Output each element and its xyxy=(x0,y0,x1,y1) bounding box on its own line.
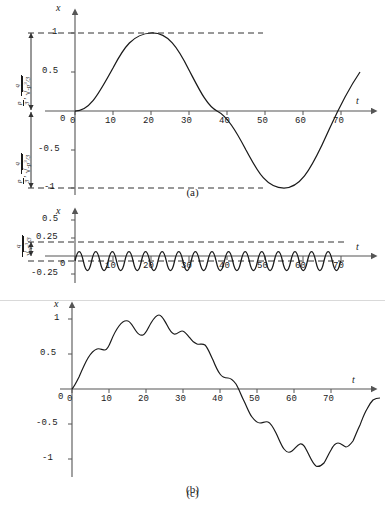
x-tick-label-b-7: 70 xyxy=(333,261,344,271)
x-tick-label-a-5: 50 xyxy=(257,116,268,126)
y-tick-label-a-3: -0.5 xyxy=(38,144,60,154)
bracket-label-b-term: q √-p3/3 xyxy=(15,235,34,257)
y-tick-label-c-2: 0 xyxy=(58,392,63,402)
y-axis-label-b: x xyxy=(56,205,60,216)
y-tick-label-c-0: 1 xyxy=(54,313,59,323)
panel-b: 0.5 0.25 0 -0.25 10 20 30 40 50 60 70 x … xyxy=(0,205,385,297)
bracket-label-upper-sep: , xyxy=(18,97,27,101)
x-tick-label-c-7: 70 xyxy=(323,394,334,404)
x-tick-label-a-4: 40 xyxy=(219,116,230,126)
panel-c-caption: (c) xyxy=(0,487,385,499)
y-axis-label-c: x xyxy=(54,298,58,309)
y-tick-label-a-2: 0 xyxy=(60,114,65,124)
bracket-label-upper-term1: p 3 xyxy=(16,101,31,107)
x-tick-marks xyxy=(72,389,331,393)
bracket-upper-arrow-top xyxy=(28,33,33,38)
x-tick-marks xyxy=(75,111,341,115)
x-tick-label-c-2: 20 xyxy=(138,394,149,404)
x-tick-label-b-6: 60 xyxy=(295,261,306,271)
x-tick-label-c-1: 10 xyxy=(101,394,112,404)
x-tick-label-c-6: 60 xyxy=(286,394,297,404)
bracket-label-lower-sep: , xyxy=(18,175,27,179)
bracket-label-upper-term2: q √-p3/3 xyxy=(14,75,33,97)
x-tick-label-a-6: 60 xyxy=(295,116,306,126)
x-tick-label-b-3: 30 xyxy=(181,261,192,271)
x-tick-label-a-1: 10 xyxy=(105,116,116,126)
y-tick-label-b-3: -0.25 xyxy=(31,268,58,278)
x-tick-label-a-0: 0 xyxy=(70,116,75,126)
bracket-label-lower-term1: p 3 xyxy=(16,179,31,185)
x-tick-label-a-3: 30 xyxy=(181,116,192,126)
y-tick-label-a-1: 0.5 xyxy=(42,66,58,76)
bracket-label-b: q √-p3/3 xyxy=(15,235,34,257)
y-tick-marks xyxy=(71,220,75,274)
y-tick-label-a-0: 1 xyxy=(52,27,57,37)
x-tick-label-b-4: 40 xyxy=(219,261,230,271)
bracket-label-lower: p 3 , q √-p3/3 xyxy=(14,153,33,184)
x-tick-label-c-4: 40 xyxy=(212,394,223,404)
x-axis-label-c: t xyxy=(352,374,355,385)
y-axis-label-a: x xyxy=(56,2,60,13)
y-tick-label-c-4: -1 xyxy=(42,453,53,463)
panel-a: 1 0.5 0 -0.5 -1 0 10 20 30 40 50 60 70 x… xyxy=(0,0,385,205)
x-tick-label-b-1: 10 xyxy=(105,261,116,271)
y-tick-label-b-1: 0.25 xyxy=(36,232,58,242)
x-tick-label-b-2: 20 xyxy=(143,261,154,271)
panel-a-caption: (a) xyxy=(0,186,385,198)
bracket-label-lower-term2: q √-p3/3 xyxy=(14,153,33,175)
x-tick-label-a-2: 20 xyxy=(143,116,154,126)
x-tick-label-b-5: 50 xyxy=(257,261,268,271)
y-tick-label-b-2: 0 xyxy=(60,259,65,269)
panel-c: 1 0.5 0 -0.5 -1 0 10 20 30 40 50 60 70 x… xyxy=(0,297,385,508)
y-tick-label-c-3: -0.5 xyxy=(36,418,58,428)
bracket-lower-arrow-top xyxy=(28,112,33,117)
x-tick-label-c-0: 0 xyxy=(67,394,72,404)
x-tick-label-c-3: 30 xyxy=(175,394,186,404)
x-tick-label-a-7: 70 xyxy=(333,116,344,126)
bracket-label-upper: p 3 , q √-p3/3 xyxy=(14,75,33,106)
x-tick-label-c-5: 50 xyxy=(249,394,260,404)
x-axis-label-b: t xyxy=(356,241,359,252)
x-axis-label-a: t xyxy=(356,95,359,106)
curve-sum-a-plus-b xyxy=(72,315,380,466)
panel-a-plot xyxy=(0,0,385,205)
y-tick-label-c-1: 0.5 xyxy=(40,348,56,358)
